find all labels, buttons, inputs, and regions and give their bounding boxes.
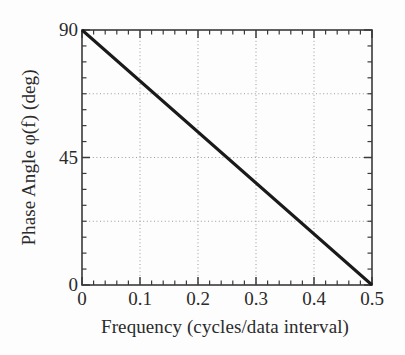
x-tick-label: 0.1 [128,289,152,308]
x-tick-label: 0.4 [302,289,326,308]
x-axis-tick-labels: 00.10.20.30.40.5 [0,289,405,315]
x-tick-label: 0.2 [186,289,210,308]
x-axis-title: Frequency (cycles/data interval) [60,316,390,338]
x-tick-label: 0 [77,289,87,308]
phase-angle-chart-figure: Phase Angle φ(f) (deg) 04590 00.10.20.30… [0,0,405,355]
x-tick-label: 0.3 [244,289,268,308]
x-tick-label: 0.5 [360,289,384,308]
